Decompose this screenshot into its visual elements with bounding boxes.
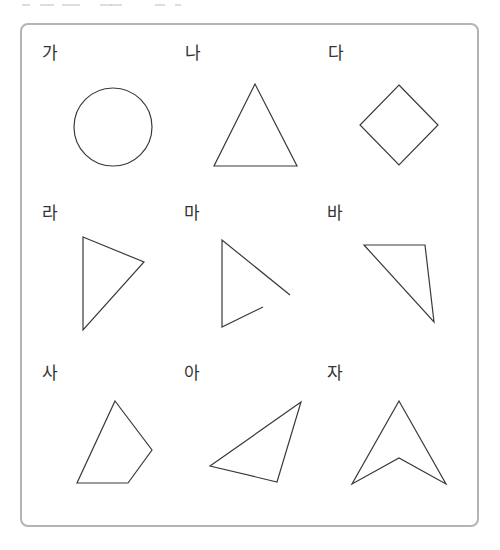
shape-na-triangle [214, 84, 297, 166]
shape-a-triangle [210, 402, 301, 482]
shape-da-square [360, 85, 438, 165]
shape-sa-quadrilateral [77, 401, 152, 483]
shape-ba-triangle [364, 245, 434, 322]
shape-ga-circle [74, 88, 152, 166]
shape-ma-open [222, 240, 290, 327]
shape-ra-triangle [83, 237, 144, 330]
shape-ja-arrowhead [352, 401, 446, 484]
shapes-canvas [0, 0, 500, 550]
